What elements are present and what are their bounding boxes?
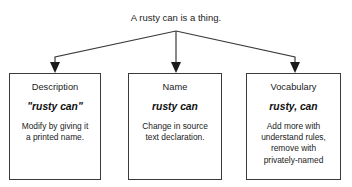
node-term-description: "rusty can" xyxy=(10,100,100,113)
node-body-line: understand rules, xyxy=(252,132,335,143)
arrowhead-vocabulary-icon xyxy=(290,62,300,73)
node-body-line: privately-named xyxy=(252,155,335,166)
arrowhead-name-icon xyxy=(171,62,181,73)
node-heading-description: Description xyxy=(10,81,100,93)
connector-to-vocabulary xyxy=(176,31,295,64)
diagram-canvas: A rusty can is a thing. Description "rus… xyxy=(0,0,352,187)
node-term-vocabulary: rusty, can xyxy=(247,100,340,113)
arrowhead-description-icon xyxy=(50,62,60,73)
node-box-name: Name rusty can Change in source text dec… xyxy=(128,73,222,180)
node-body-description: Modify by giving it a printed name. xyxy=(10,121,100,143)
node-body-line: Modify by giving it xyxy=(15,121,95,132)
node-box-description: Description "rusty can" Modify by giving… xyxy=(9,73,101,180)
node-heading-vocabulary: Vocabulary xyxy=(247,81,340,93)
node-heading-name: Name xyxy=(129,81,221,93)
diagram-title: A rusty can is a thing. xyxy=(0,12,352,24)
node-body-vocabulary: Add more with understand rules, remove w… xyxy=(247,121,340,166)
connector-to-description xyxy=(55,31,176,64)
node-term-name: rusty can xyxy=(129,100,221,113)
node-body-line: a printed name. xyxy=(15,132,95,143)
node-box-vocabulary: Vocabulary rusty, can Add more with unde… xyxy=(246,73,341,180)
node-body-line: Change in source xyxy=(134,121,216,132)
node-body-line: remove with xyxy=(252,143,335,154)
node-body-line: text declaration. xyxy=(134,132,216,143)
node-body-line: Add more with xyxy=(252,121,335,132)
node-body-name: Change in source text declaration. xyxy=(129,121,221,143)
